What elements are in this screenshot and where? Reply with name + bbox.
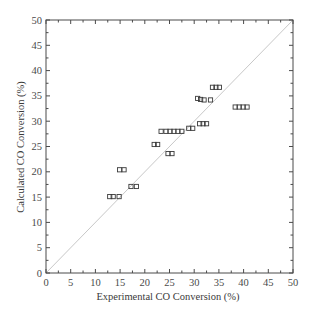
x-tick-label: 45 <box>263 277 274 288</box>
y-tick-label: 30 <box>32 116 43 127</box>
x-tick-label: 10 <box>90 277 101 288</box>
x-tick-labels: 05101520253035404550 <box>43 277 298 288</box>
x-tick-label: 20 <box>140 277 151 288</box>
data-point-marker <box>134 184 138 188</box>
data-markers <box>108 85 250 198</box>
x-tick-label: 40 <box>238 277 249 288</box>
x-tick-label: 25 <box>164 277 175 288</box>
x-tick-label: 15 <box>115 277 126 288</box>
data-point-marker <box>159 129 163 133</box>
x-tick-label: 35 <box>214 277 225 288</box>
data-point-marker <box>208 98 212 102</box>
y-tick-label: 5 <box>37 242 42 253</box>
y-tick-label: 15 <box>32 192 43 203</box>
data-point-marker <box>122 168 126 172</box>
parity-line <box>46 20 293 273</box>
y-tick-label: 0 <box>37 268 42 279</box>
x-axis-title: Experimental CO Conversion (%) <box>96 291 240 303</box>
x-tick-label: 5 <box>68 277 73 288</box>
y-tick-label: 10 <box>32 217 43 228</box>
x-tick-label: 50 <box>288 277 299 288</box>
parity-line-segment <box>46 20 293 273</box>
y-tick-label: 40 <box>32 65 43 76</box>
y-axis-title: Calculated CO Conversion (%) <box>15 81 27 213</box>
y-tick-label: 20 <box>32 166 43 177</box>
x-tick-label: 30 <box>189 277 200 288</box>
y-tick-label: 35 <box>32 90 43 101</box>
y-tick-label: 45 <box>32 40 43 51</box>
y-tick-label: 25 <box>32 141 43 152</box>
data-point-marker <box>118 168 122 172</box>
x-tick-label: 0 <box>43 277 48 288</box>
parity-scatter-chart: 05101520253035404550 0510152025303540455… <box>0 0 313 315</box>
y-tick-label: 50 <box>32 15 43 26</box>
y-tick-labels: 05101520253035404550 <box>32 15 43 279</box>
